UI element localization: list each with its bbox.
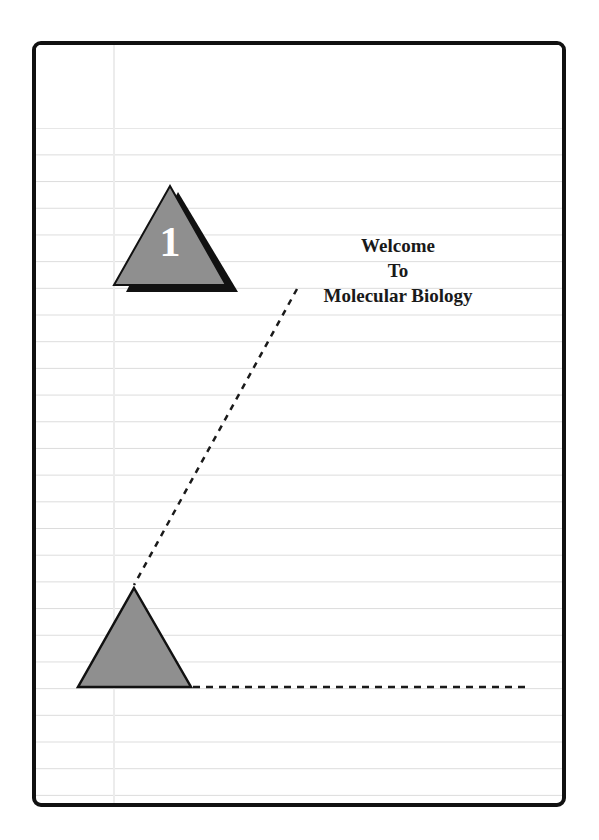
diagonal-dashed-connector (134, 289, 297, 585)
title-line-1: Welcome (308, 233, 488, 258)
chapter-number: 1 (150, 219, 190, 265)
title-line-2: To (308, 258, 488, 283)
slide-title: Welcome To Molecular Biology (308, 233, 488, 308)
decorative-art (0, 0, 599, 840)
bottom-triangle-icon (78, 588, 191, 687)
title-line-3: Molecular Biology (308, 283, 488, 308)
